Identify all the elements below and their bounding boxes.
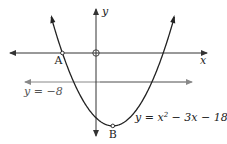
parabola-right-arrow-icon [170,15,175,23]
equation-label: y = x2 − 3x − 18 [134,111,227,124]
parabola-diagram: AB y x y = −8 y = x2 − 3x − 18 [0,0,227,144]
points-layer: AB [53,51,116,141]
equation-suffix: − 3x − 18 [168,111,227,124]
equation-prefix: y = x [134,111,164,124]
x-axis-label: x [200,54,207,67]
point-label-a: A [53,54,63,67]
y-axis-label: y [101,5,109,18]
parabola-curve [51,17,174,126]
line-label: y = −8 [23,85,63,98]
point-label-b: B [109,128,117,141]
parabola-left-arrow-icon [50,15,55,23]
